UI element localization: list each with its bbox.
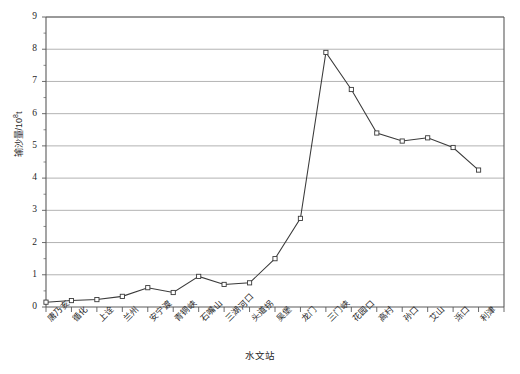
gridlines-group [46,17,504,275]
series-markers-group [44,50,481,304]
series-marker [426,136,430,140]
series-marker [197,274,201,278]
series-line-sediment-discharge [46,52,479,302]
series-marker [222,282,226,286]
series-marker [44,300,48,304]
series-marker [451,145,455,149]
series-marker [298,216,302,220]
series-marker [247,281,251,285]
series-marker [146,286,150,290]
series-marker [324,50,328,54]
series-marker [375,131,379,135]
axis-lines-group [46,17,504,307]
x-axis-title: 水文站 [0,348,520,362]
series-marker [120,294,124,298]
sediment-discharge-line-chart: 输沙量/108t 0123456789 唐乃亥循化上诠兰州安宁渡青铜峡石嘴山三湖… [0,0,520,374]
series-marker [171,290,175,294]
series-marker [69,298,73,302]
series-marker [273,257,277,261]
series-marker [400,139,404,143]
series-marker [95,297,99,301]
y-tick-marks-group [42,17,46,307]
series-marker [476,168,480,172]
series-marker [349,87,353,91]
